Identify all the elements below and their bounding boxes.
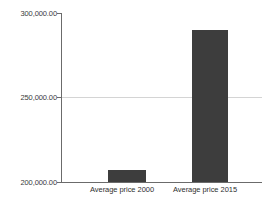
bar-average-price-2000 xyxy=(108,170,146,182)
gridline-200000-baseline xyxy=(61,182,262,183)
gridline-300000 xyxy=(61,13,262,14)
bar-chart: 300,000.00 250,000.00 200,000.00 Average… xyxy=(0,0,268,204)
y-tick-label-200000: 200,000.00 xyxy=(0,178,57,187)
x-tick-label-average-price-2015: Average price 2015 xyxy=(173,185,237,195)
y-tick-mark-250000 xyxy=(57,97,61,98)
y-tick-mark-300000 xyxy=(57,13,61,14)
bar-average-price-2015 xyxy=(192,30,228,182)
y-axis-line xyxy=(61,13,62,183)
y-tick-label-300000: 300,000.00 xyxy=(0,9,57,18)
x-tick-label-average-price-2000: Average price 2000 xyxy=(90,185,154,195)
gridline-250000 xyxy=(61,97,262,98)
y-tick-mark-200000 xyxy=(57,182,61,183)
y-tick-label-250000: 250,000.00 xyxy=(0,93,57,102)
